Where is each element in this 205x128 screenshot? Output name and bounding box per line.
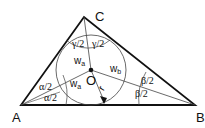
incenter-label: O bbox=[86, 73, 96, 88]
vertex-label-c: C bbox=[95, 9, 104, 24]
angle-label-gamma-right: γ/2 bbox=[91, 38, 104, 49]
angle-label-beta-lower: β/2 bbox=[135, 88, 148, 99]
angle-label-beta-upper: β/2 bbox=[141, 75, 154, 86]
segment-label-wb: wb bbox=[109, 63, 121, 75]
angle-label-alpha-lower: α/2 bbox=[44, 92, 57, 103]
angle-label-alpha-upper: α/2 bbox=[39, 81, 52, 92]
radius-arrowhead bbox=[100, 96, 107, 104]
incircle-diagram: A B C O r α/2 α/2 β/2 β/2 γ/2 γ/2 wa wa … bbox=[0, 0, 205, 128]
incenter-point bbox=[89, 68, 94, 73]
angle-arc-a bbox=[63, 75, 67, 105]
segment-label-wa-upper: wa bbox=[73, 55, 85, 67]
angle-label-gamma-left: γ/2 bbox=[71, 38, 84, 49]
vertex-label-a: A bbox=[12, 110, 21, 125]
radius-label: r bbox=[96, 83, 108, 92]
segment-label-wa-lower: wa bbox=[69, 78, 81, 90]
vertex-label-b: B bbox=[196, 110, 205, 125]
